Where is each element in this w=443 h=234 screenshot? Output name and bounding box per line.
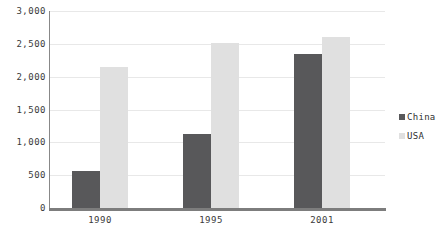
bar-usa-1990[interactable] <box>100 67 128 208</box>
y-axis-tick-label: 0 <box>2 204 46 213</box>
x-axis-tick-label: 2001 <box>277 215 367 225</box>
legend-item-china[interactable]: China <box>399 110 443 124</box>
bar-group <box>294 11 350 208</box>
y-axis-tick-label: 1,000 <box>2 138 46 147</box>
y-axis-tick-label: 2,000 <box>2 73 46 82</box>
bar-china-1990[interactable] <box>72 171 100 208</box>
bar-china-2001[interactable] <box>294 54 322 208</box>
bar-group <box>72 11 128 208</box>
bar-china-1995[interactable] <box>183 134 211 208</box>
legend-swatch-icon <box>399 133 405 139</box>
bar-chart: 05001,0001,5002,0002,5003,000 1990199520… <box>0 0 443 234</box>
x-axis-tick-label: 1995 <box>166 215 256 225</box>
legend-swatch-icon <box>399 114 405 120</box>
y-axis-tick-label: 500 <box>2 171 46 180</box>
chart-legend: ChinaUSA <box>399 110 443 148</box>
y-axis-tick-label: 3,000 <box>2 7 46 16</box>
plot-area <box>50 11 385 208</box>
y-axis-tick-labels: 05001,0001,5002,0002,5003,000 <box>0 0 46 234</box>
x-axis-line <box>49 208 386 211</box>
bar-group <box>183 11 239 208</box>
legend-item-usa[interactable]: USA <box>399 129 443 143</box>
bar-usa-1995[interactable] <box>211 43 239 208</box>
legend-label: China <box>407 113 436 122</box>
y-axis-tick-label: 2,500 <box>2 40 46 49</box>
x-axis-tick-label: 1990 <box>55 215 145 225</box>
bar-usa-2001[interactable] <box>322 37 350 208</box>
y-axis-tick-label: 1,500 <box>2 106 46 115</box>
legend-label: USA <box>407 132 424 141</box>
